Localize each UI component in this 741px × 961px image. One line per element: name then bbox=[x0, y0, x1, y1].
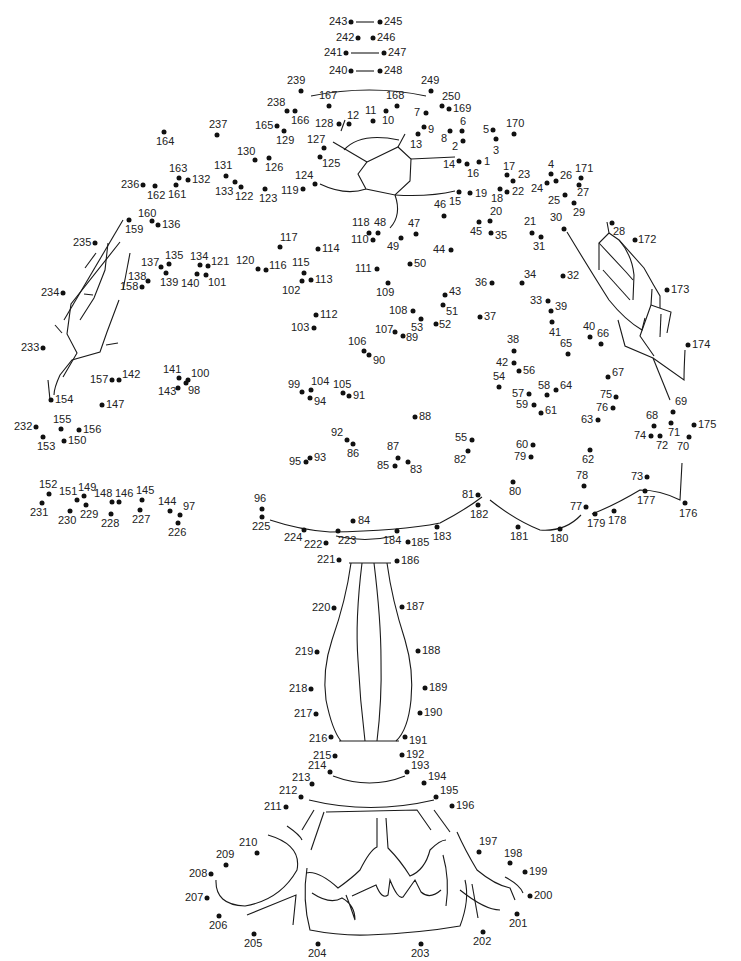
dot-2 bbox=[461, 139, 466, 144]
dot-58 bbox=[545, 393, 550, 398]
dot-label: 106 bbox=[348, 336, 366, 347]
dot-label: 83 bbox=[410, 464, 422, 475]
dot-label: 136 bbox=[162, 219, 180, 230]
dot-label: 241 bbox=[324, 47, 342, 58]
dot-25 bbox=[563, 193, 568, 198]
dot-label: 30 bbox=[550, 212, 562, 223]
dot-99 bbox=[300, 390, 305, 395]
dot-label: 67 bbox=[612, 367, 624, 378]
dot-label: 4 bbox=[548, 159, 554, 170]
dot-132 bbox=[186, 178, 191, 183]
dot-90 bbox=[367, 353, 372, 358]
dot-label: 2 bbox=[452, 141, 458, 152]
dot-189 bbox=[423, 686, 428, 691]
dot-label: 80 bbox=[509, 486, 521, 497]
dot-77 bbox=[584, 505, 589, 510]
dot-48 bbox=[376, 231, 381, 236]
dot-178 bbox=[612, 509, 617, 514]
dot-226 bbox=[176, 521, 181, 526]
dot-label: 126 bbox=[265, 162, 283, 173]
dot-label: 226 bbox=[168, 527, 186, 538]
dot-label: 32 bbox=[567, 270, 579, 281]
dot-label: 177 bbox=[637, 495, 655, 506]
dot-label: 237 bbox=[209, 119, 227, 130]
dot-label: 48 bbox=[374, 217, 386, 228]
dot-154 bbox=[49, 398, 54, 403]
dot-label: 74 bbox=[634, 430, 646, 441]
dot-40 bbox=[588, 335, 593, 340]
dot-label: 63 bbox=[581, 414, 593, 425]
dot-93 bbox=[308, 456, 313, 461]
dot-label: 217 bbox=[294, 708, 312, 719]
dot-175 bbox=[692, 423, 697, 428]
dot-45 bbox=[477, 220, 482, 225]
dot-238 bbox=[285, 109, 290, 114]
dot-201 bbox=[515, 912, 520, 917]
dot-label: 84 bbox=[358, 515, 370, 526]
dot-121 bbox=[206, 264, 211, 269]
dot-label: 161 bbox=[168, 189, 186, 200]
dot-label: 98 bbox=[188, 385, 200, 396]
dot-label: 183 bbox=[433, 531, 451, 542]
dot-label: 61 bbox=[545, 405, 557, 416]
dot-222 bbox=[324, 541, 329, 546]
dot-231 bbox=[40, 501, 45, 506]
dot-label: 9 bbox=[428, 124, 434, 135]
dot-label: 196 bbox=[456, 800, 474, 811]
dot-label: 200 bbox=[534, 890, 552, 901]
dot-153 bbox=[41, 435, 46, 440]
dot-191 bbox=[403, 735, 408, 740]
dot-label: 88 bbox=[419, 411, 431, 422]
dot-29 bbox=[572, 201, 577, 206]
dot-120 bbox=[256, 267, 261, 272]
dot-236 bbox=[141, 183, 146, 188]
dot-label: 81 bbox=[462, 489, 474, 500]
dot-219 bbox=[315, 650, 320, 655]
dot-204 bbox=[316, 942, 321, 947]
dot-81 bbox=[476, 493, 481, 498]
dot-label: 37 bbox=[484, 311, 496, 322]
dot-162 bbox=[153, 184, 158, 189]
dot-60 bbox=[531, 443, 536, 448]
dot-47 bbox=[414, 232, 419, 237]
dot-70 bbox=[687, 435, 692, 440]
dot-label: 204 bbox=[308, 948, 326, 959]
dot-label: 128 bbox=[315, 118, 333, 129]
dot-186 bbox=[395, 559, 400, 564]
dot-41 bbox=[550, 320, 555, 325]
dot-label: 20 bbox=[490, 206, 502, 217]
dot-label: 89 bbox=[406, 332, 418, 343]
dot-label: 39 bbox=[555, 301, 567, 312]
dot-74 bbox=[649, 434, 654, 439]
dot-label: 6 bbox=[460, 116, 466, 127]
dot-124 bbox=[313, 182, 318, 187]
dot-label: 5 bbox=[483, 124, 489, 135]
dot-229 bbox=[84, 503, 89, 508]
dot-label: 14 bbox=[443, 159, 455, 170]
dot-label: 238 bbox=[267, 97, 285, 108]
dot-label: 168 bbox=[386, 90, 404, 101]
dot-label: 178 bbox=[608, 515, 626, 526]
dot-label: 3 bbox=[493, 145, 499, 156]
dot-label: 179 bbox=[587, 518, 605, 529]
dot-label: 144 bbox=[158, 496, 176, 507]
dot-131 bbox=[224, 174, 229, 179]
dot-label: 171 bbox=[575, 163, 593, 174]
dot-label: 55 bbox=[455, 432, 467, 443]
dot-10 bbox=[371, 119, 376, 124]
dot-134 bbox=[198, 263, 203, 268]
dot-label: 40 bbox=[583, 321, 595, 332]
dot-71 bbox=[669, 421, 674, 426]
dot-167 bbox=[327, 104, 332, 109]
dot-100 bbox=[186, 378, 191, 383]
dot-label: 142 bbox=[122, 369, 140, 380]
dot-label: 19 bbox=[475, 188, 487, 199]
dot-173 bbox=[665, 288, 670, 293]
dot-label: 112 bbox=[320, 309, 338, 320]
dot-88 bbox=[413, 415, 418, 420]
dot-235 bbox=[93, 241, 98, 246]
dot-label: 133 bbox=[215, 186, 233, 197]
dot-38 bbox=[512, 349, 517, 354]
dot-32 bbox=[561, 274, 566, 279]
dot-106 bbox=[362, 349, 367, 354]
